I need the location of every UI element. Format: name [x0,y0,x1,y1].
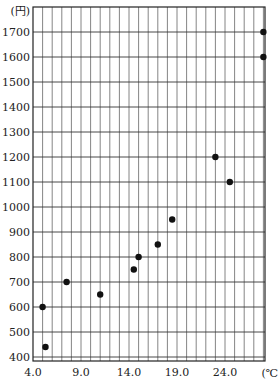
data-point [260,54,266,60]
x-axis-unit-label: (℃) [262,367,278,380]
y-tick-label: 1200 [2,151,30,164]
data-point [42,344,48,350]
y-tick-label: 700 [9,276,30,289]
y-axis-unit-label: (円) [10,5,30,18]
y-tick-label: 1000 [2,201,30,214]
y-tick-label: 900 [9,226,30,239]
y-tick-label: 1400 [2,101,30,114]
data-point [97,291,103,297]
data-point [39,304,45,310]
y-tick-label: 800 [9,251,30,264]
data-point [260,29,266,35]
x-tick-label: 9.0 [72,366,90,379]
x-tick-label: 19.0 [165,366,190,379]
y-tick-label: 1700 [2,26,30,39]
data-point [155,241,161,247]
y-tick-label: 1500 [2,76,30,89]
data-point [63,279,69,285]
y-tick-label: 600 [9,301,30,314]
data-point [212,154,218,160]
y-tick-label: 400 [9,351,30,364]
y-tick-label: 1100 [2,176,30,189]
y-tick-label: 1300 [2,126,30,139]
y-tick-label: 1600 [2,51,30,64]
x-tick-label: 4.0 [24,366,42,379]
y-tick-label: 500 [9,326,30,339]
data-point [169,216,175,222]
x-tick-label: 24.0 [213,366,238,379]
data-point [227,179,233,185]
data-point [131,266,137,272]
x-tick-label: 14.0 [117,366,142,379]
data-point [135,254,141,260]
scatter-chart: 4005006007008009001000110012001300140015… [0,0,278,381]
